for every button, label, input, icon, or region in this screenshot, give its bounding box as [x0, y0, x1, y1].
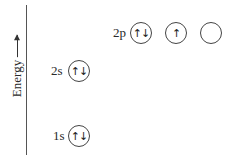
energy-axis-label: Energy — [9, 35, 25, 97]
level-label-1s: 1s — [53, 128, 65, 144]
orbital-2p-1: ↑↓ — [130, 22, 152, 44]
orbital-2p-3 — [200, 22, 222, 44]
level-label-2p: 2p — [113, 25, 126, 41]
arrow-up-icon — [17, 35, 18, 57]
energy-axis-line — [26, 5, 27, 155]
orbital-2p-2: ↑ — [165, 22, 187, 44]
orbital-1s: ↑↓ — [68, 125, 90, 147]
energy-label-text: Energy — [9, 60, 25, 97]
orbital-2s: ↑↓ — [68, 60, 90, 82]
level-label-2s: 2s — [51, 63, 63, 79]
